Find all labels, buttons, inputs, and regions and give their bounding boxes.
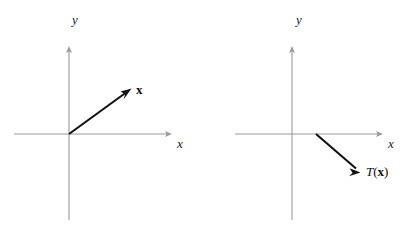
x-axis-label: x	[388, 137, 394, 150]
vector-tx-shaft	[316, 134, 356, 169]
vector-tx-diagram: y x T(x)	[210, 0, 419, 234]
y-axis-label: y	[296, 13, 302, 26]
right-panel-canvas	[210, 0, 419, 234]
vector-x-diagram: y x x	[0, 0, 210, 234]
x-axis-label: x	[177, 137, 183, 150]
vector-x-label-text: x	[136, 82, 143, 97]
vector-tx-arrowhead	[349, 168, 361, 176]
vector-x-arrowhead	[121, 89, 132, 100]
left-panel-canvas	[0, 0, 210, 234]
y-axis-label: y	[72, 13, 78, 26]
vector-x-label: x	[136, 83, 143, 96]
vector-tx-label-close-paren: )	[384, 164, 388, 179]
vector-x-shaft	[69, 92, 128, 135]
vector-tx-label: T(x)	[366, 165, 388, 178]
linear-transformation-figure: y x x y x T(x)	[0, 0, 419, 234]
